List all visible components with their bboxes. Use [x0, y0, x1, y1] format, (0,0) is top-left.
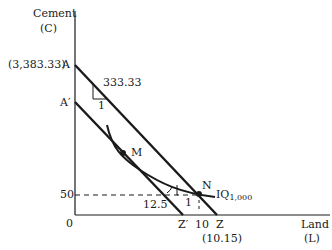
point-A-label: A	[62, 59, 70, 71]
point-N-label: N	[202, 180, 212, 192]
y-axis-label-line2: (C)	[40, 23, 57, 35]
point-Zprime-label: Z′	[178, 219, 188, 231]
x-axis-label-line2: (L)	[304, 233, 320, 245]
isoquant-curve	[107, 125, 215, 197]
point-Z-coord-label: (10.15)	[202, 233, 242, 245]
point-Aprime-label: A′	[60, 97, 70, 109]
y-tick-50: 50	[60, 189, 74, 201]
isoquant-label-main: IQ	[216, 188, 229, 201]
point-A-coord-label: (3,383.33)	[8, 59, 66, 71]
slope-upper-run: 1	[98, 100, 105, 112]
y-axis-label-line1: Cement	[33, 8, 76, 20]
x-axis-label-line1: Land	[301, 219, 329, 231]
origin-label: 0	[66, 218, 73, 230]
x-tick-10: 10	[195, 219, 209, 231]
slope-lower-run: 1	[185, 197, 192, 209]
slope-upper-rise: 333.33	[103, 77, 142, 89]
point-M	[120, 150, 126, 156]
slope-lower-rise: 12.5	[143, 199, 168, 211]
point-Z-label: Z	[216, 219, 224, 231]
isoquant-label: IQ1,000	[216, 189, 252, 204]
slope-arc-lower	[167, 187, 172, 193]
point-M-label: M	[131, 147, 142, 159]
isocost-line-AZ	[75, 65, 217, 215]
diagram-canvas	[0, 0, 332, 250]
isoquant-label-subscript: 1,000	[229, 193, 252, 202]
